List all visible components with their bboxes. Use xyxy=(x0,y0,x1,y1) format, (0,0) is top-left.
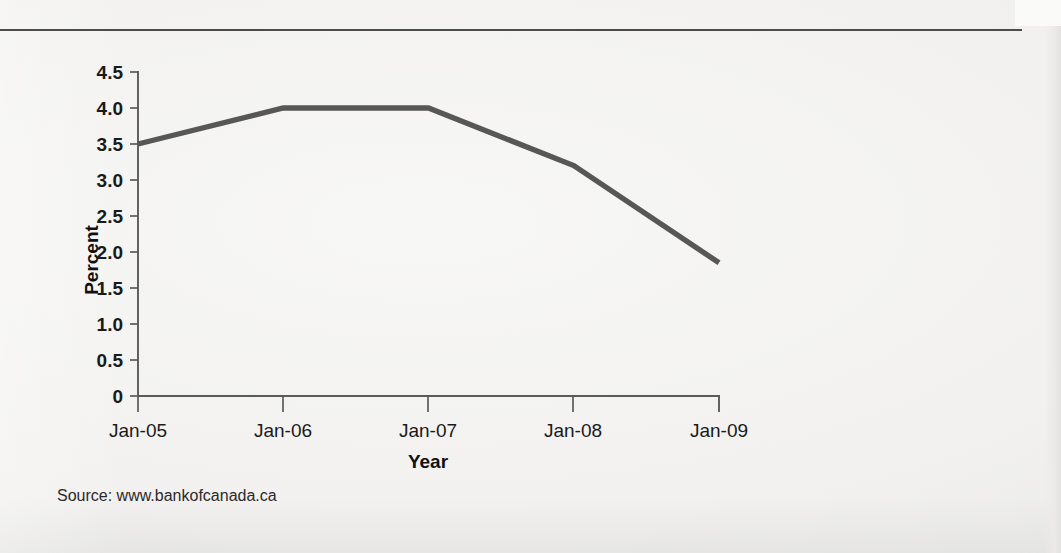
x-tick-label: Jan-08 xyxy=(544,420,602,441)
source-note: Source: www.bankofcanada.ca xyxy=(57,487,277,504)
y-axis-group: 4.5 4.0 3.5 3.0 2.5 2.0 xyxy=(97,62,138,407)
x-tick-jan-06: Jan-06 xyxy=(254,396,312,441)
y-tick-2.0: 2.0 xyxy=(97,242,138,263)
y-tick-3.5: 3.5 xyxy=(97,134,138,155)
y-tick-0.5: 0.5 xyxy=(97,350,138,371)
data-series-line xyxy=(138,108,719,263)
y-tick-label: 4.5 xyxy=(97,62,124,83)
x-tick-jan-07: Jan-07 xyxy=(399,396,457,441)
y-tick-label: 0.5 xyxy=(97,350,124,371)
y-axis-title: Percent xyxy=(81,224,102,294)
y-tick-label: 1.0 xyxy=(97,314,123,335)
x-tick-label: Jan-05 xyxy=(109,420,167,441)
y-tick-label: 4.0 xyxy=(97,98,123,119)
y-tick-0: 0 xyxy=(112,386,138,407)
line-chart: 4.5 4.0 3.5 3.0 2.5 2.0 xyxy=(0,0,1061,553)
x-tick-jan-08: Jan-08 xyxy=(544,396,602,441)
y-tick-3.0: 3.0 xyxy=(97,170,138,191)
y-tick-1.0: 1.0 xyxy=(97,314,138,335)
y-tick-label: 3.0 xyxy=(97,170,123,191)
chart-canvas: 4.5 4.0 3.5 3.0 2.5 2.0 xyxy=(0,0,1061,553)
x-axis-group: Jan-05 Jan-06 Jan-07 Jan-08 Jan-09 xyxy=(109,396,748,441)
x-tick-label: Jan-09 xyxy=(690,420,748,441)
y-tick-4.5: 4.5 xyxy=(97,62,138,83)
y-tick-label: 2.5 xyxy=(97,206,124,227)
x-tick-jan-09: Jan-09 xyxy=(690,420,748,441)
y-tick-4.0: 4.0 xyxy=(97,98,138,119)
y-tick-label: 0 xyxy=(112,386,123,407)
y-tick-label: 3.5 xyxy=(97,134,124,155)
y-tick-1.5: 1.5 xyxy=(97,278,138,299)
x-tick-label: Jan-06 xyxy=(254,420,312,441)
x-axis-title: Year xyxy=(408,451,449,472)
y-tick-2.5: 2.5 xyxy=(97,206,138,227)
x-tick-label: Jan-07 xyxy=(399,420,457,441)
